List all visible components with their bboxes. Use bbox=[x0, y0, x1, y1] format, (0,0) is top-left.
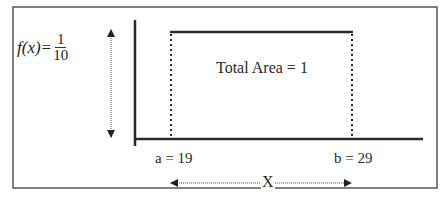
fraction: 1 10 bbox=[53, 32, 68, 63]
lower-bound-label: a = 19 bbox=[155, 150, 193, 167]
equals-sign: = bbox=[42, 38, 52, 58]
fraction-numerator: 1 bbox=[55, 32, 67, 48]
x-axis-label: X bbox=[261, 173, 275, 191]
function-name: f(x) bbox=[17, 38, 41, 58]
diagram-canvas bbox=[0, 0, 443, 200]
outer-frame bbox=[13, 7, 437, 188]
total-area-label: Total Area = 1 bbox=[216, 59, 308, 77]
fraction-denominator: 10 bbox=[53, 48, 68, 63]
upper-bound-label: b = 29 bbox=[334, 150, 372, 167]
density-function-label: f(x) = 1 10 bbox=[17, 32, 68, 63]
